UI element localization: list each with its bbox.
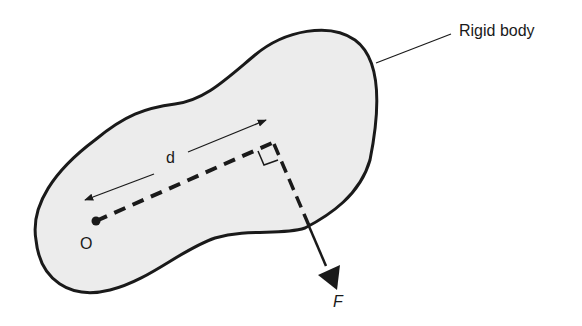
rigid-body-label: Rigid body	[459, 23, 535, 39]
force-label: F	[333, 294, 343, 310]
rigid-body-outline	[35, 30, 377, 292]
force-line-solid	[308, 224, 326, 266]
pivot-point-O	[92, 217, 101, 226]
diagram-svg	[0, 0, 582, 326]
distance-label: d	[166, 150, 175, 166]
pivot-label: O	[80, 236, 92, 252]
leader-line	[376, 34, 451, 63]
diagram-canvas: Rigid body d O F	[0, 0, 582, 326]
force-arrowhead-icon	[318, 265, 340, 290]
